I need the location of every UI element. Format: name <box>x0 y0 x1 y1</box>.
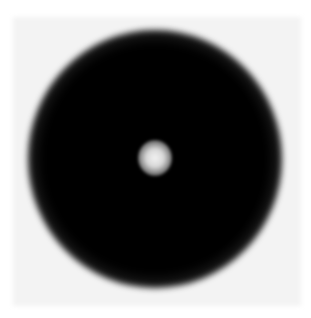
bright-center-spot <box>138 140 172 176</box>
image-frame: Grayscale circular dark ring with a brig… <box>0 0 311 318</box>
